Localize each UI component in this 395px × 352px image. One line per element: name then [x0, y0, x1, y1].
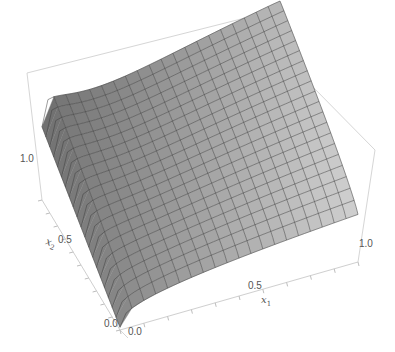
x1-tick-05: 0.5 [248, 280, 262, 291]
surface-plot: 1.0 0.5 0.0 0.0 0.5 1.0 x2 x1 [0, 0, 395, 352]
x1-tick-0: 0.0 [128, 326, 142, 337]
x1-axis-label: x1 [261, 294, 271, 308]
x2-axis-label: x2 [43, 236, 57, 253]
x2-tick-1: 1.0 [20, 153, 34, 164]
x2-tick-0: 0.0 [104, 318, 118, 329]
x1-tick-1: 1.0 [359, 238, 373, 249]
x2-tick-05: 0.5 [58, 234, 72, 245]
